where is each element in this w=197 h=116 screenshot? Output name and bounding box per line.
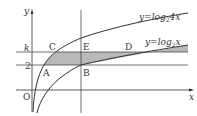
x-axis-label: x	[189, 92, 194, 102]
point-E-label: E	[83, 42, 90, 52]
point-A-label: A	[42, 68, 50, 78]
y-axis-label: y	[23, 6, 30, 16]
curve-label-log2-x: y=log2x	[144, 37, 181, 48]
curve-label-log2-4x: y=log24x	[138, 12, 180, 23]
two-label: 2	[25, 61, 31, 71]
point-D-label: D	[125, 42, 132, 52]
k-label: k	[24, 43, 29, 53]
y-axis-arrow-icon	[31, 9, 34, 14]
origin-label: O	[23, 92, 30, 102]
point-C-label: C	[49, 42, 56, 52]
log-diagram: y x O k 2 A B C E D y=log24x y=log2x	[0, 0, 197, 116]
point-B-label: B	[83, 68, 90, 78]
